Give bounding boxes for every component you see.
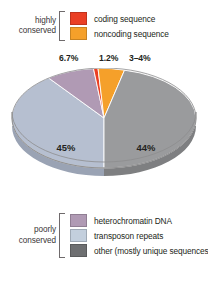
legend-top-bracket-label: highly conserved (4, 16, 59, 37)
swatch-other-unique-sequences (70, 244, 87, 257)
pie-chart: 45% 44% (0, 68, 208, 208)
slice-label-45: 45% (57, 142, 76, 153)
legend-label-heterochromatin-dna: heterochromatin DNA (94, 216, 172, 226)
swatch-transposon-repeats (70, 229, 87, 242)
legend-label-other-unique-sequences: other (mostly unique sequences) (94, 246, 208, 256)
swatch-coding-sequence (70, 12, 87, 25)
pie-callout-labels: 6.7% 1.2% 3–4% (0, 53, 208, 66)
legend-item-heterochromatin-dna[interactable]: heterochromatin DNA (70, 213, 208, 228)
legend-top-items: coding sequence noncoding sequence (70, 11, 169, 41)
swatch-heterochromatin-dna (70, 214, 87, 227)
legend-highly-conserved: highly conserved coding sequence noncodi… (4, 11, 169, 41)
swatch-noncoding-sequence (70, 27, 87, 40)
legend-bottom-bracket-label: poorly conserved (4, 225, 59, 246)
legend-item-noncoding-sequence[interactable]: noncoding sequence (70, 26, 169, 41)
legend-bottom-bracket-label-line2: conserved (4, 236, 56, 247)
slice-other-unique-sequences[interactable] (104, 70, 196, 168)
legend-label-noncoding-sequence: noncoding sequence (94, 29, 169, 39)
callout-heterochromatin-percent: 6.7% (59, 53, 78, 63)
legend-top-bracket-label-line1: highly (4, 16, 56, 27)
legend-item-transposon-repeats[interactable]: transposon repeats (70, 228, 208, 243)
legend-top-bracket-label-line2: conserved (4, 26, 56, 37)
callout-coding-percent: 1.2% (99, 53, 118, 63)
legend-label-coding-sequence: coding sequence (94, 14, 155, 24)
slice-label-44: 44% (137, 142, 156, 153)
legend-poorly-conserved: poorly conserved heterochromatin DNA tra… (4, 213, 208, 258)
pie-chart-svg: 45% 44% (0, 68, 208, 208)
legend-top-bracket (59, 11, 65, 41)
legend-label-transposon-repeats: transposon repeats (94, 231, 163, 241)
callout-noncoding-percent: 3–4% (129, 53, 151, 63)
legend-item-coding-sequence[interactable]: coding sequence (70, 11, 169, 26)
legend-item-other-unique-sequences[interactable]: other (mostly unique sequences) (70, 243, 208, 258)
legend-bottom-bracket-label-line1: poorly (4, 225, 56, 236)
legend-bottom-items: heterochromatin DNA transposon repeats o… (70, 213, 208, 258)
pie-top-face (12, 68, 196, 168)
legend-bottom-bracket (59, 213, 65, 258)
